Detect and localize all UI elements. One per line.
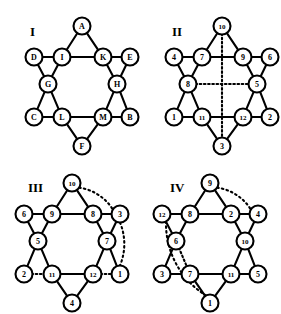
arc-iii-3-1 — [120, 223, 124, 266]
node-label-iv-5: 5 — [256, 270, 260, 279]
node-iii-9[interactable]: 9 — [44, 206, 61, 223]
node-label-ii-11: 11 — [199, 114, 206, 122]
node-iv-3[interactable]: 3 — [154, 266, 171, 283]
edge-iv-6-3 — [165, 248, 173, 267]
node-i-F[interactable]: F — [74, 138, 91, 155]
node-iii-6[interactable]: 6 — [16, 206, 33, 223]
node-label-i-H: H — [114, 80, 121, 89]
node-i-G[interactable]: G — [40, 76, 57, 93]
node-i-H[interactable]: H — [109, 76, 126, 93]
edge-iii-5-2 — [27, 248, 35, 267]
node-label-i-C: C — [31, 113, 37, 122]
node-label-iv-6: 6 — [174, 237, 178, 246]
node-ii-9[interactable]: 9 — [235, 49, 252, 66]
node-iii-1[interactable]: 1 — [112, 266, 129, 283]
node-label-iv-10: 10 — [242, 238, 250, 246]
node-label-ii-7: 7 — [200, 53, 204, 62]
edge-iii-12-4 — [76, 280, 88, 297]
node-label-i-M: M — [99, 113, 107, 122]
node-ii-4[interactable]: 4 — [166, 49, 183, 66]
node-iii-2[interactable]: 2 — [16, 266, 33, 283]
node-ii-11[interactable]: 11 — [194, 109, 211, 126]
edge-i-H-B — [120, 91, 128, 110]
node-label-iii-11: 11 — [49, 271, 56, 279]
node-i-M[interactable]: M — [95, 109, 112, 126]
node-iv-7[interactable]: 7 — [182, 266, 199, 283]
panel-label-ii: II — [172, 24, 182, 39]
node-ii-2[interactable]: 2 — [262, 109, 279, 126]
node-iii-5[interactable]: 5 — [30, 233, 47, 250]
node-iv-4[interactable]: 4 — [250, 206, 267, 223]
node-label-i-F: F — [80, 142, 85, 151]
node-ii-8[interactable]: 8 — [180, 76, 197, 93]
node-i-I[interactable]: I — [54, 49, 71, 66]
node-i-D[interactable]: D — [26, 49, 43, 66]
node-i-E[interactable]: E — [122, 49, 139, 66]
node-ii-1[interactable]: 1 — [166, 109, 183, 126]
node-iv-1[interactable]: 1 — [202, 295, 219, 312]
edge-iii-6-5 — [27, 221, 34, 235]
edge-iv-10-11 — [234, 248, 242, 267]
edge-ii-5-12 — [246, 91, 254, 110]
edge-i-G-C — [37, 91, 45, 110]
edge-iii-10-9 — [56, 189, 68, 207]
node-iii-7[interactable]: 7 — [99, 233, 116, 250]
node-label-iv-2: 2 — [229, 210, 233, 219]
node-iv-11[interactable]: 11 — [223, 266, 240, 283]
node-i-L[interactable]: L — [54, 109, 71, 126]
node-label-ii-5: 5 — [255, 80, 259, 89]
node-iv-9[interactable]: 9 — [202, 175, 219, 192]
node-label-iii-6: 6 — [22, 210, 26, 219]
edge-iv-6-7 — [179, 248, 187, 267]
node-label-i-G: G — [45, 80, 51, 89]
node-iv-8[interactable]: 8 — [182, 206, 199, 223]
node-label-iii-8: 8 — [91, 210, 95, 219]
node-ii-6[interactable]: 6 — [262, 49, 279, 66]
node-ii-12[interactable]: 12 — [235, 109, 252, 126]
node-label-ii-6: 6 — [268, 53, 272, 62]
edge-ii-9-5 — [246, 64, 253, 78]
node-label-iii-4: 4 — [70, 299, 74, 308]
node-iii-11[interactable]: 11 — [44, 266, 61, 283]
node-ii-3[interactable]: 3 — [214, 138, 231, 155]
node-iv-2[interactable]: 2 — [223, 206, 240, 223]
node-iii-10[interactable]: 10 — [64, 175, 81, 192]
node-i-B[interactable]: B — [122, 109, 139, 126]
node-iv-5[interactable]: 5 — [250, 266, 267, 283]
edge-ii-11-3 — [206, 123, 217, 140]
node-iii-4[interactable]: 4 — [64, 295, 81, 312]
edge-iii-7-12 — [96, 248, 104, 267]
edge-ii-12-3 — [226, 123, 238, 140]
edge-i-K-H — [106, 64, 113, 78]
edge-ii-8-1 — [177, 91, 185, 110]
edge-ii-10-9 — [226, 32, 239, 51]
node-label-i-B: B — [127, 113, 133, 122]
edge-ii-7-8 — [191, 64, 198, 78]
node-ii-5[interactable]: 5 — [249, 76, 266, 93]
node-label-iii-1: 1 — [118, 270, 122, 279]
node-iii-12[interactable]: 12 — [85, 266, 102, 283]
figure-container: ADEIKGHCBLMFI104679851211123II1063985721… — [0, 0, 281, 314]
panel-ii: 104679851211123II — [166, 18, 279, 155]
node-iv-10[interactable]: 10 — [237, 233, 254, 250]
node-label-iv-12: 12 — [159, 211, 167, 219]
panel-iii: 106398572111124III — [16, 175, 129, 312]
node-iii-8[interactable]: 8 — [85, 206, 102, 223]
edge-ii-6-5 — [260, 64, 266, 77]
node-i-A[interactable]: A — [74, 18, 91, 35]
node-iii-3[interactable]: 3 — [112, 206, 129, 223]
node-label-iii-2: 2 — [22, 270, 26, 279]
edge-ii-10-7 — [206, 32, 218, 50]
edge-iv-8-6 — [179, 221, 186, 235]
node-label-iv-9: 9 — [208, 179, 212, 188]
node-ii-10[interactable]: 10 — [214, 18, 231, 35]
panel-label-iii: III — [28, 180, 43, 195]
node-i-K[interactable]: K — [95, 49, 112, 66]
node-iv-12[interactable]: 12 — [154, 206, 171, 223]
node-label-iv-8: 8 — [188, 210, 192, 219]
node-ii-7[interactable]: 7 — [194, 49, 211, 66]
node-i-C[interactable]: C — [26, 109, 43, 126]
node-label-ii-10: 10 — [219, 23, 227, 31]
edge-iii-8-7 — [96, 221, 103, 235]
node-iv-6[interactable]: 6 — [168, 233, 185, 250]
